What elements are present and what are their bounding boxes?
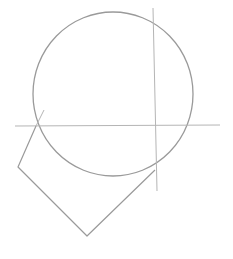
sketch-canvas	[0, 0, 233, 259]
sketch-svg	[0, 0, 233, 259]
